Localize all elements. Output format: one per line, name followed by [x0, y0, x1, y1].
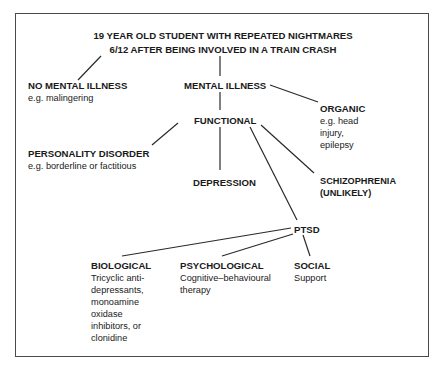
node-ptsd: PTSD [294, 222, 320, 236]
node-detail-line: Cognitive–behavioural [180, 272, 271, 284]
node-depression: DEPRESSION [193, 175, 256, 189]
node-example: e.g. malingering [28, 92, 127, 104]
node-label: SOCIAL [294, 260, 330, 271]
diagram-title-line1: 19 YEAR OLD STUDENT WITH REPEATED NIGHTM… [0, 29, 446, 43]
node-label: PTSD [294, 224, 320, 235]
edge-mental-illness-organic [270, 85, 318, 102]
node-label: PSYCHOLOGICAL [180, 260, 264, 271]
node-detail-line: therapy [180, 284, 271, 296]
diagram-title-line2: 6/12 AFTER BEING INVOLVED IN A TRAIN CRA… [0, 43, 446, 57]
node-mental-illness: MENTAL ILLNESS [184, 78, 266, 92]
node-label: BIOLOGICAL [91, 260, 151, 271]
node-functional: FUNCTIONAL [194, 113, 256, 127]
edge-ptsd-social [303, 235, 310, 256]
node-label-line: SCHIZOPHRENIA [320, 175, 396, 187]
node-label: PERSONALITY DISORDER [28, 148, 149, 159]
node-detail-line: inhibitors, or [91, 320, 151, 332]
node-label: MENTAL ILLNESS [184, 80, 266, 91]
node-example-line: injury, [320, 127, 365, 139]
node-detail-line: oxidase [91, 308, 151, 320]
node-biological: BIOLOGICAL Tricyclic anti- depressants, … [91, 258, 151, 344]
node-label-line: (UNLIKELY) [320, 187, 396, 199]
node-label: DEPRESSION [193, 177, 256, 188]
node-detail-line: Support [294, 272, 330, 284]
node-label: ORGANIC [320, 103, 365, 114]
node-detail-line: monoamine [91, 296, 151, 308]
node-personality-disorder: PERSONALITY DISORDER e.g. borderline or … [28, 146, 149, 172]
edge-functional-personality-disorder [152, 123, 178, 145]
node-label: FUNCTIONAL [194, 115, 256, 126]
node-example: e.g. borderline or factitious [28, 160, 149, 172]
edge-title-no-mental-illness [78, 56, 101, 80]
node-psychological: PSYCHOLOGICAL Cognitive–behavioural ther… [180, 258, 271, 296]
node-schizophrenia: SCHIZOPHRENIA (UNLIKELY) [320, 175, 396, 199]
node-detail-line: Tricyclic anti- [91, 272, 151, 284]
edge-functional-ptsd [250, 127, 297, 220]
node-detail-line: depressants, [91, 284, 151, 296]
node-example-line: e.g. head [320, 115, 365, 127]
node-detail-line: clonidine [91, 332, 151, 344]
node-example-line: epilepsy [320, 139, 365, 151]
node-organic: ORGANIC e.g. head injury, epilepsy [320, 101, 365, 151]
node-social: SOCIAL Support [294, 258, 330, 284]
node-label: NO MENTAL ILLNESS [28, 80, 127, 91]
node-no-mental-illness: NO MENTAL ILLNESS e.g. malingering [28, 78, 127, 104]
